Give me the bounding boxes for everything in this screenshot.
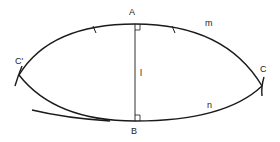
- label-m: m: [205, 19, 213, 28]
- label-l: l: [140, 69, 142, 78]
- label-c-prime: C': [15, 57, 23, 66]
- label-a: A: [129, 8, 135, 17]
- label-c: C: [260, 65, 267, 74]
- arc-crossing-c-prime: [15, 66, 22, 86]
- label-n: n: [207, 101, 212, 110]
- label-b: B: [131, 127, 137, 136]
- right-angle-marker-a: [135, 24, 140, 30]
- right-angle-marker-b: [135, 115, 140, 121]
- arc-crossing-c: [262, 77, 264, 96]
